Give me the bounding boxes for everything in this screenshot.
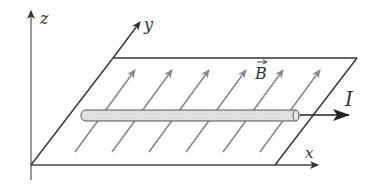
x-axis-label: x [305,144,314,162]
field-label-b: B [254,60,267,83]
y-axis-label: y [143,15,154,34]
diagram-canvas: z y x B I [0,0,375,189]
current-label: I [344,87,354,111]
svg-text:B: B [254,64,267,83]
z-axis-label: z [39,9,49,28]
y-axis [113,22,140,58]
conducting-rod [81,110,299,121]
